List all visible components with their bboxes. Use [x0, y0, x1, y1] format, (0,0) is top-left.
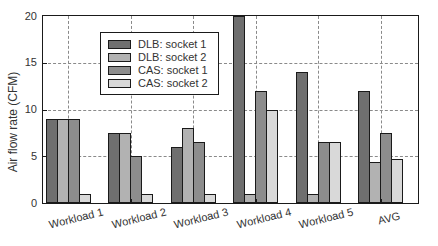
y-axis-tick: [43, 156, 47, 157]
bar: [204, 194, 216, 203]
x-tick-label: Workload 4: [235, 205, 292, 230]
y-tick-label: 5: [0, 150, 37, 163]
x-tick-label: Workload 5: [298, 205, 355, 230]
y-tick-label: 20: [0, 10, 37, 23]
bar: [391, 159, 403, 203]
y-tick-label: 10: [0, 103, 37, 116]
x-tick-label: Workload 2: [110, 205, 167, 230]
x-axis-tick: [131, 199, 132, 203]
bar: [79, 194, 91, 203]
bar: [329, 142, 341, 203]
bar: [266, 110, 278, 204]
x-axis-tick: [256, 199, 257, 203]
bar-chart-figure: Air flow rate (CFM) DLB: socket 1DLB: so…: [0, 0, 438, 246]
y-axis-tick: [43, 63, 47, 64]
y-tick-label: 15: [0, 56, 37, 69]
x-axis-tick: [68, 199, 69, 203]
x-tick-label: Workload 3: [173, 205, 230, 230]
x-axis-tick: [381, 199, 382, 203]
x-tick-label: Workload 1: [48, 205, 105, 230]
legend-swatch: [108, 79, 131, 88]
legend-swatch: [108, 40, 131, 49]
x-tick-label: AVG: [376, 209, 401, 226]
x-axis-tick: [193, 199, 194, 203]
legend-item: DLB: socket 1: [108, 38, 208, 51]
bar: [233, 16, 245, 203]
y-tick-label: 0: [0, 197, 37, 210]
legend-label: CAS: socket 2: [138, 77, 208, 90]
legend-item: CAS: socket 2: [108, 77, 208, 90]
x-axis-tick: [318, 199, 319, 203]
legend: DLB: socket 1DLB: socket 2CAS: socket 1C…: [100, 32, 219, 95]
bar: [68, 119, 80, 203]
legend-swatch: [108, 66, 131, 75]
legend-item: CAS: socket 1: [108, 64, 208, 77]
legend-swatch: [108, 53, 131, 62]
legend-item: DLB: socket 2: [108, 51, 208, 64]
bar: [296, 72, 308, 203]
plot-area: DLB: socket 1DLB: socket 2CAS: socket 1C…: [42, 15, 419, 204]
legend-label: DLB: socket 1: [138, 38, 206, 51]
legend-label: DLB: socket 2: [138, 51, 206, 64]
legend-label: CAS: socket 1: [138, 64, 208, 77]
bar: [141, 194, 153, 203]
y-axis-tick: [43, 110, 47, 111]
